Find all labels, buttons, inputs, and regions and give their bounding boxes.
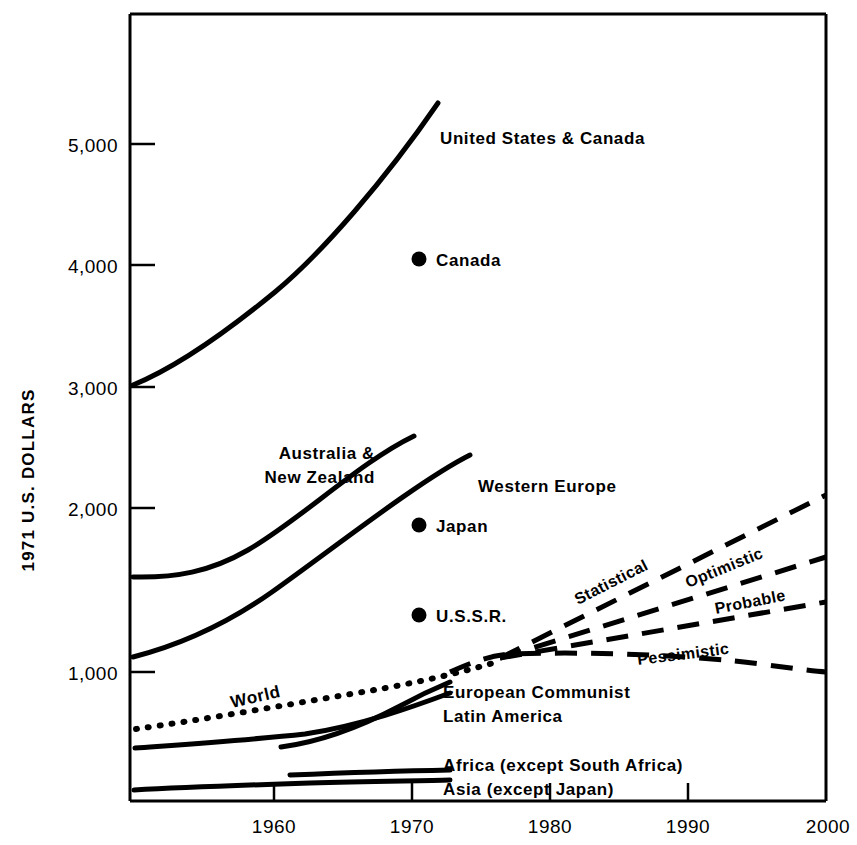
series-optimistic-projection [500,557,826,658]
y-axis-title: 1971 U.S. DOLLARS [19,389,38,572]
x-tick-labels: 1960 1970 1980 1990 2000 [252,816,850,837]
y-tick-label-4000: 4,000 [68,256,118,277]
label-european-communist: European Communist [443,683,630,702]
marker-japan [412,518,427,533]
label-western-europe: Western Europe [478,477,616,496]
chart-root: 5,000 4,000 3,000 2,000 1,000 1971 U.S. … [0,0,857,845]
marker-ussr [412,608,427,623]
label-australia-nz-line2: New Zealand [264,468,375,487]
series-united-states-and-canada [133,103,438,385]
label-optimistic: Optimistic [683,544,766,591]
x-tick-label-2000: 2000 [806,816,850,837]
label-ussr-point: U.S.S.R. [436,607,507,626]
label-latin-america: Latin America [443,707,563,726]
series-statistical-projection [500,495,826,658]
x-tick-label-1980: 1980 [528,816,572,837]
label-africa: Africa (except South Africa) [443,756,683,775]
label-asia: Asia (except Japan) [443,780,614,799]
series-africa-except-south-africa [290,770,450,775]
label-canada-point: Canada [436,251,501,270]
marker-canada [412,252,427,267]
y-tick-label-5000: 5,000 [68,135,118,156]
y-tick-label-1000: 1,000 [68,663,118,684]
label-united-states-and-canada: United States & Canada [440,129,645,148]
gnp-per-capita-chart: 5,000 4,000 3,000 2,000 1,000 1971 U.S. … [0,0,857,845]
x-tick-label-1960: 1960 [252,816,296,837]
label-japan-point: Japan [436,517,488,536]
label-australia-nz-line1: Australia & [279,444,375,463]
series-asia-except-japan [134,780,450,790]
y-tick-labels: 5,000 4,000 3,000 2,000 1,000 [68,135,118,684]
series-european-communist [281,682,450,747]
y-tick-label-2000: 2,000 [68,499,118,520]
x-tick-label-1990: 1990 [666,816,710,837]
label-pessimistic: Pessimistic [636,640,730,668]
y-tick-label-3000: 3,000 [68,378,118,399]
label-probable: Probable [713,587,787,617]
y-axis-ticks [130,144,155,672]
x-tick-label-1970: 1970 [390,816,434,837]
